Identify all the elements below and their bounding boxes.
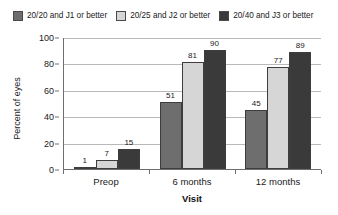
y-tick-label: 100 (39, 34, 54, 43)
legend-label-2: 20/25 and J2 or better (130, 11, 210, 21)
y-tick-label: 20 (44, 139, 54, 148)
legend-swatch-series-1 (13, 11, 23, 21)
x-tick-label: 6 months (149, 176, 235, 187)
bar-value-label: 45 (252, 100, 261, 108)
x-tick-label: 12 months (235, 176, 321, 187)
y-tick-mark (55, 38, 59, 39)
bar-value-label: 51 (166, 92, 175, 100)
x-tick-mark (63, 170, 64, 174)
bar-value-label: 1 (83, 157, 87, 165)
x-tick-mark (149, 170, 150, 174)
bar-value-label: 89 (296, 42, 305, 50)
bar[interactable]: 81 (182, 62, 204, 169)
bar[interactable]: 51 (160, 102, 182, 169)
bar[interactable]: 77 (267, 67, 289, 169)
legend-item-3: 20/40 and J3 or better (219, 11, 313, 21)
bar-group: 518190 (150, 38, 236, 169)
x-tick-label: Preop (63, 176, 149, 187)
bar[interactable]: 90 (204, 50, 226, 169)
bar[interactable]: 1 (74, 167, 96, 169)
y-axis-title: Percent of eyes (13, 64, 22, 154)
legend-label-1: 20/20 and J1 or better (27, 11, 107, 21)
y-tick-mark (55, 170, 59, 171)
bar-value-label: 77 (274, 57, 283, 65)
y-tick-mark (55, 64, 59, 65)
x-axis-tickmarks (63, 170, 321, 175)
bar-value-label: 81 (188, 52, 197, 60)
bar[interactable]: 45 (245, 110, 267, 169)
chart-legend: 20/20 and J1 or better 20/25 and J2 or b… (13, 11, 313, 21)
bar[interactable]: 15 (118, 149, 140, 169)
bar-group: 457789 (235, 38, 321, 169)
bar-group: 1715 (64, 38, 150, 169)
x-axis-title: Visit (63, 193, 321, 204)
legend-label-3: 20/40 and J3 or better (233, 11, 313, 21)
bar[interactable]: 7 (96, 160, 118, 169)
x-tick-mark (235, 170, 236, 174)
legend-item-2: 20/25 and J2 or better (116, 11, 210, 21)
y-tick-label: 40 (44, 113, 54, 122)
y-tick-label: 0 (49, 166, 54, 175)
x-tick-mark (321, 170, 322, 174)
y-axis-ticks: 020406080100 (26, 38, 59, 170)
y-tick-label: 60 (44, 86, 54, 95)
bar-groups: 1715518190457789 (64, 38, 321, 169)
y-tick-mark (55, 117, 59, 118)
y-tick-mark (55, 143, 59, 144)
legend-swatch-series-2 (116, 11, 126, 21)
y-tick-label: 80 (44, 60, 54, 69)
x-axis-ticklabels: Preop6 months12 months (63, 176, 321, 187)
bar-value-label: 7 (105, 150, 109, 158)
legend-item-1: 20/20 and J1 or better (13, 11, 107, 21)
bar[interactable]: 89 (289, 52, 311, 169)
bar-chart: 20/20 and J1 or better 20/25 and J2 or b… (0, 0, 338, 215)
legend-swatch-series-3 (219, 11, 229, 21)
y-tick-mark (55, 90, 59, 91)
bar-value-label: 90 (210, 40, 219, 48)
plot-area: 1715518190457789 (63, 38, 321, 170)
bar-value-label: 15 (124, 139, 133, 147)
